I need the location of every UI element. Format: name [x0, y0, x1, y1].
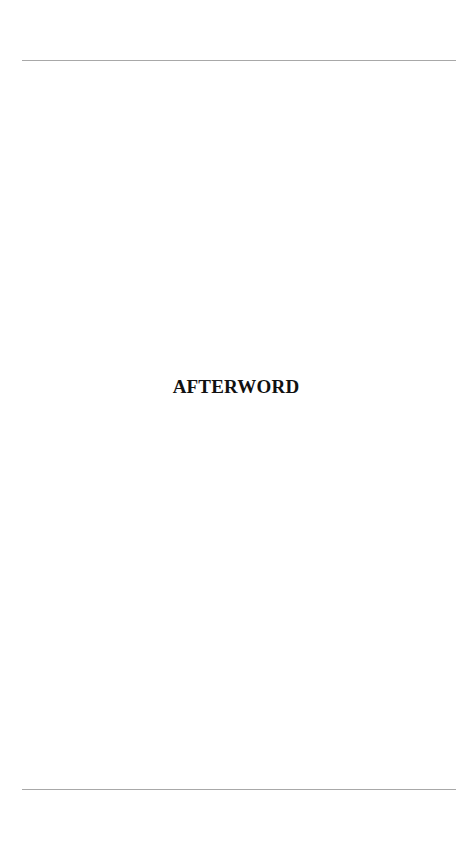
page-title: AFTERWORD	[0, 376, 472, 398]
footer-rule	[22, 789, 456, 790]
header-rule	[22, 60, 456, 61]
